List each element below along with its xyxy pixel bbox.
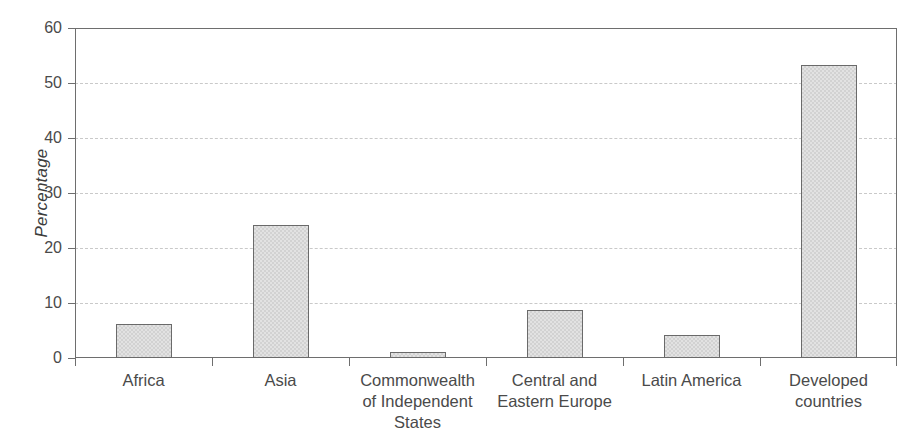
- x-tick-2: [349, 358, 350, 366]
- bar-central-and-eastern-europe[interactable]: [527, 310, 583, 358]
- y-tick-label-40: 40: [44, 129, 62, 147]
- y-tick-20: [68, 248, 75, 249]
- bar-latin-america[interactable]: [664, 335, 720, 358]
- x-tick-4: [623, 358, 624, 366]
- bar-asia[interactable]: [253, 225, 309, 358]
- y-tick-label-20: 20: [44, 239, 62, 257]
- x-label-africa: Africa: [75, 370, 212, 391]
- bar-africa[interactable]: [116, 324, 172, 358]
- bar-commonwealth-of-independent-states[interactable]: [390, 352, 446, 358]
- y-tick-label-60: 60: [44, 19, 62, 37]
- y-tick-60: [68, 28, 75, 29]
- x-label-asia: Asia: [212, 370, 349, 391]
- y-tick-30: [68, 193, 75, 194]
- bar-developed-countries[interactable]: [801, 65, 857, 358]
- x-tick-1: [212, 358, 213, 366]
- x-label-commonwealth-of-independent-states: Commonwealth of Independent States: [347, 370, 488, 433]
- y-tick-label-10: 10: [44, 294, 62, 312]
- x-tick-6: [896, 358, 897, 366]
- y-tick-label-30: 30: [44, 184, 62, 202]
- x-tick-0: [75, 358, 76, 366]
- plot-area-frame: [75, 28, 897, 358]
- y-tick-label-0: 0: [53, 349, 62, 367]
- y-tick-0: [68, 358, 75, 359]
- x-tick-3: [486, 358, 487, 366]
- y-tick-10: [68, 303, 75, 304]
- x-tick-5: [760, 358, 761, 366]
- bar-chart: Percentage 0 10 20 30 40 50 60 Africa As…: [0, 0, 915, 448]
- y-tick-50: [68, 83, 75, 84]
- y-tick-40: [68, 138, 75, 139]
- y-tick-label-50: 50: [44, 74, 62, 92]
- x-label-developed-countries: Developed countries: [758, 370, 899, 412]
- x-label-latin-america: Latin America: [621, 370, 762, 391]
- x-label-central-and-eastern-europe: Central and Eastern Europe: [484, 370, 625, 412]
